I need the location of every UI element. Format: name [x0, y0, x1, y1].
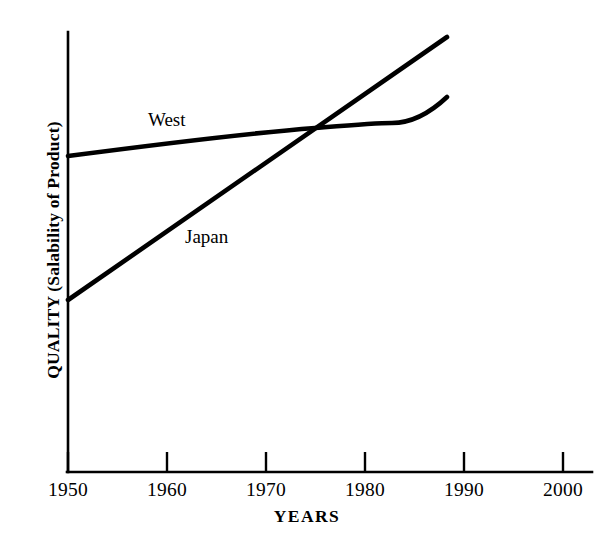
series-label-japan: Japan: [185, 226, 228, 248]
x-tick-label-1990: 1990: [444, 479, 484, 501]
series-label-west: West: [148, 109, 186, 131]
series-line-west: [68, 97, 447, 156]
x-tick-label-1980: 1980: [345, 479, 385, 501]
x-tick-label-1950: 1950: [48, 479, 88, 501]
chart-figure: 1950 1960 1970 1980 1990 2000 YEARS QUAL…: [0, 0, 614, 557]
x-tick-label-1970: 1970: [246, 479, 286, 501]
y-axis-title: QUALITY (Salability of Product): [38, 40, 68, 460]
x-axis-title: YEARS: [274, 506, 340, 527]
chart-plot-area: [0, 0, 614, 557]
x-tick-label-2000: 2000: [543, 479, 583, 501]
x-tick-label-1960: 1960: [147, 479, 187, 501]
series-line-japan: [68, 37, 447, 300]
